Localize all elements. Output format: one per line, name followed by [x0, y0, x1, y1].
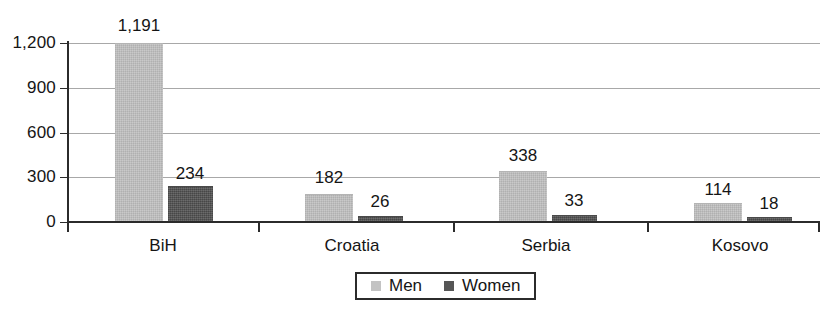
y-axis-label-600: 600 — [0, 123, 56, 143]
x-tick-3 — [647, 223, 649, 232]
value-label-men-croatia: 182 — [315, 168, 343, 188]
legend-swatch-women-icon — [444, 281, 454, 291]
bar-men-serbia — [499, 171, 547, 222]
y-axis-label-900: 900 — [0, 78, 56, 98]
x-axis-label-croatia: Croatia — [325, 236, 380, 256]
gridline-900 — [68, 88, 820, 89]
bar-chart: 1,200 900 600 300 0 BiH Croatia Serbia K… — [0, 0, 835, 320]
x-tick-4 — [818, 223, 820, 232]
x-axis-line — [67, 221, 820, 223]
value-label-women-kosovo: 18 — [760, 194, 779, 214]
y-tick-900 — [60, 88, 69, 89]
y-axis-label-300: 300 — [0, 167, 56, 187]
legend-swatch-men-icon — [371, 281, 381, 291]
x-axis-label-bih: BiH — [149, 236, 176, 256]
value-label-women-croatia: 26 — [371, 192, 390, 212]
value-label-men-serbia: 338 — [509, 146, 537, 166]
chart-legend: Men Women — [355, 272, 536, 300]
y-tick-300 — [60, 177, 69, 178]
x-axis-label-serbia: Serbia — [521, 236, 570, 256]
legend-label-men: Men — [389, 276, 422, 296]
value-label-men-bih: 1,191 — [118, 16, 161, 36]
bar-men-bih — [115, 43, 163, 222]
y-tick-600 — [60, 133, 69, 134]
y-axis-label-1200: 1,200 — [0, 33, 56, 53]
value-label-men-kosovo: 114 — [704, 180, 731, 200]
y-tick-1200 — [60, 43, 69, 44]
x-tick-0 — [67, 223, 69, 232]
legend-label-women: Women — [462, 276, 520, 296]
value-label-women-bih: 234 — [176, 164, 204, 184]
bar-women-bih — [168, 186, 213, 222]
gridline-1200 — [68, 43, 820, 44]
legend-item-women[interactable]: Women — [444, 276, 520, 296]
bar-men-kosovo — [694, 203, 742, 222]
y-axis-label-0: 0 — [0, 212, 56, 232]
legend-item-men[interactable]: Men — [371, 276, 422, 296]
value-label-women-serbia: 33 — [565, 191, 584, 211]
x-tick-1 — [258, 223, 260, 232]
bar-men-croatia — [305, 194, 353, 222]
x-axis-label-kosovo: Kosovo — [712, 236, 769, 256]
gridline-600 — [68, 133, 820, 134]
x-tick-2 — [453, 223, 455, 232]
